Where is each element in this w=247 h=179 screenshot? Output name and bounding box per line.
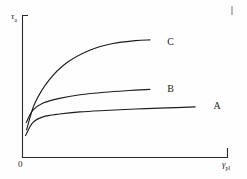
x-axis-subscript: pl — [226, 165, 231, 171]
curve-label-B: B — [167, 84, 174, 94]
plot-canvas — [0, 0, 247, 179]
curve-label-A: A — [214, 101, 221, 111]
curve-label-C: C — [167, 37, 174, 47]
x-axis-label: γpl — [222, 160, 230, 171]
origin-label: 0 — [18, 160, 23, 169]
y-axis-subscript: a — [14, 17, 17, 23]
curve-B — [26, 89, 150, 122]
axes-group — [22, 6, 232, 158]
figure-container: τa γpl 0 A B C — [0, 0, 247, 179]
curve-A — [26, 107, 196, 136]
y-axis-label: τa — [11, 12, 17, 23]
